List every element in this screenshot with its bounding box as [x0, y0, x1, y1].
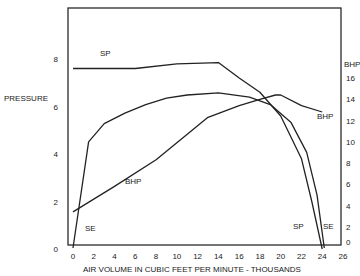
sp-label-bottom: SP	[293, 222, 304, 231]
right-tick-6: 6	[346, 180, 351, 189]
left-tick-0: 0	[54, 245, 59, 254]
se-label-low: SE	[85, 224, 96, 233]
right-axis-label: BHP	[344, 60, 360, 69]
right-tick-14: 14	[346, 95, 355, 104]
right-tick-8: 8	[346, 159, 351, 168]
x-tick-6: 6	[133, 252, 138, 261]
x-tick-10: 10	[172, 252, 181, 261]
x-tick-4: 4	[112, 252, 117, 261]
bhp-label-right: BHP	[317, 112, 333, 121]
curve-bhp	[73, 95, 322, 212]
curves-group	[73, 63, 324, 249]
x-tick-22: 22	[297, 252, 306, 261]
left-tick-4: 4	[54, 150, 59, 159]
left-axis-ticks: 02468	[54, 55, 59, 254]
left-tick-8: 8	[54, 55, 59, 64]
x-tick-14: 14	[214, 252, 223, 261]
x-axis-label: AIR VOLUME IN CUBIC FEET PER MINUTE - TH…	[83, 265, 301, 274]
x-tick-16: 16	[235, 252, 244, 261]
x-tick-24: 24	[318, 252, 327, 261]
right-tick-16: 16	[346, 74, 355, 83]
x-tick-2: 2	[92, 252, 97, 261]
x-tick-0: 0	[71, 252, 76, 261]
left-axis-label: PRESSURE	[4, 94, 48, 103]
left-tick-6: 6	[54, 103, 59, 112]
x-tick-8: 8	[154, 252, 159, 261]
curve-sp	[73, 63, 322, 249]
sp-label-top: SP	[100, 49, 111, 58]
x-axis-ticks: 02468101214161820222426	[71, 252, 348, 261]
right-tick-0: 0	[346, 238, 351, 247]
curve-se	[73, 93, 324, 248]
x-tick-18: 18	[255, 252, 264, 261]
right-tick-4: 4	[346, 202, 351, 211]
right-tick-10: 10	[346, 138, 355, 147]
plot-frame	[68, 8, 341, 245]
x-tick-26: 26	[339, 252, 348, 261]
right-axis-ticks: 0246810121416	[346, 74, 355, 247]
right-tick-12: 12	[346, 117, 355, 126]
x-tick-12: 12	[193, 252, 202, 261]
left-tick-2: 2	[54, 198, 59, 207]
x-tick-20: 20	[276, 252, 285, 261]
bhp-label-mid: BHP	[125, 177, 141, 186]
right-tick-2: 2	[346, 223, 351, 232]
se-label-bottom: SE	[323, 222, 334, 231]
fan-performance-chart: 02468101214161820222426 02468 0246810121…	[0, 0, 360, 276]
